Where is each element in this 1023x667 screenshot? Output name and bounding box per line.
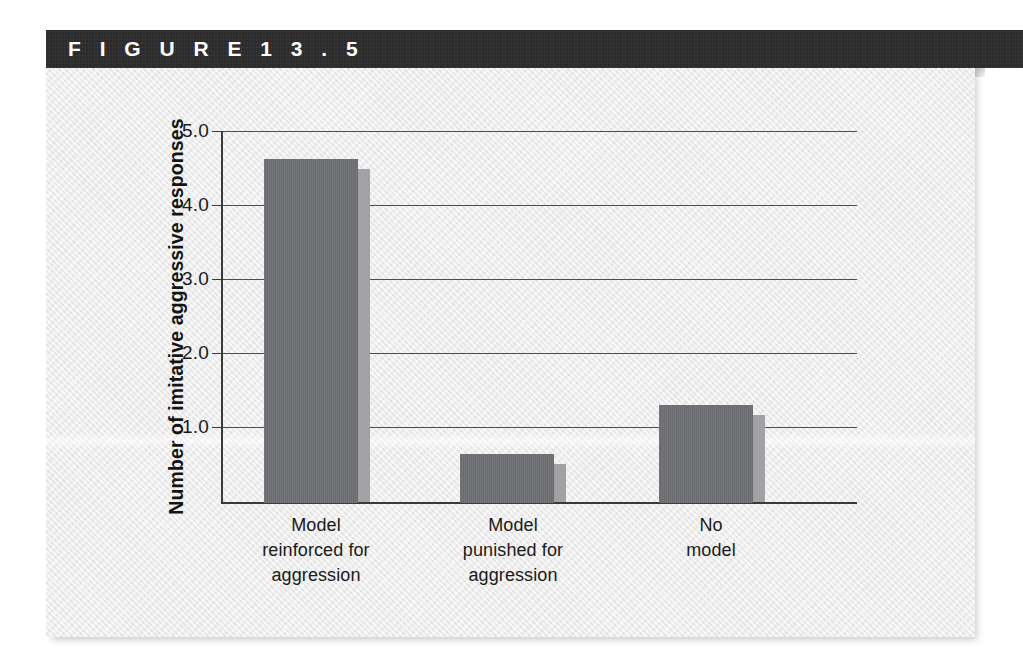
figure-panel <box>46 68 975 637</box>
scan-artifact-band <box>46 433 975 449</box>
figure-number-label: F I G U R E 1 3 . 5 <box>68 37 364 61</box>
figure-container: F I G U R E 1 3 . 5 Number of imitative … <box>0 0 1023 667</box>
figure-header-bar: F I G U R E 1 3 . 5 <box>46 30 1023 68</box>
header-corner-shadow <box>975 68 985 77</box>
